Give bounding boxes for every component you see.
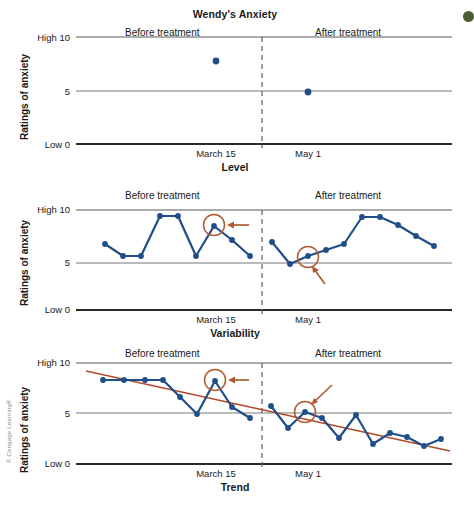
x-tick-march15-variability: March 15 <box>186 314 246 325</box>
series-points-before-variability <box>102 213 253 259</box>
annotation-arrow-before-variability <box>227 222 249 229</box>
chart-panel-variability: Before treatment After treatment Ratings… <box>0 166 470 338</box>
series-line-before-trend <box>103 380 250 418</box>
chart-panel-level: Wendy's Anxiety Before treatment After t… <box>0 0 470 172</box>
data-point-after-level <box>305 89 312 96</box>
x-tick-march15-level: March 15 <box>186 148 246 159</box>
chart-panel-trend: Before treatment After treatment Ratings… <box>0 330 470 511</box>
x-axis-title-trend: Trend <box>0 481 470 493</box>
plot-area-level <box>0 0 470 172</box>
data-point-before-level <box>213 58 220 65</box>
annotation-arrow-before-trend <box>228 377 249 384</box>
plot-area-variability <box>0 166 470 338</box>
x-tick-march15-trend: March 15 <box>186 468 246 479</box>
annotation-arrow-after-trend <box>311 385 332 405</box>
series-line-after-variability <box>272 217 434 264</box>
series-line-before-variability <box>105 216 250 256</box>
series-line-after-trend <box>271 406 441 446</box>
x-tick-may1-trend: May 1 <box>280 468 336 479</box>
trendline-trend <box>86 371 450 451</box>
series-points-before-trend <box>100 377 253 421</box>
series-points-after-variability <box>269 214 437 267</box>
annotation-arrow-after-variability <box>312 266 325 284</box>
x-tick-may1-variability: May 1 <box>280 314 336 325</box>
x-tick-may1-level: May 1 <box>280 148 336 159</box>
